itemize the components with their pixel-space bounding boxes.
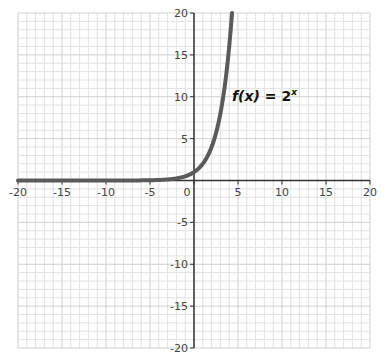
x-tick-label: 20 (363, 186, 377, 199)
function-graph: -20-15-10-505101520-20-15-10-55101520 f(… (0, 0, 382, 362)
y-tick-label: -10 (170, 258, 188, 271)
y-tick-label: 10 (174, 91, 188, 104)
x-tick-label: -5 (145, 186, 156, 199)
x-tick-label: 5 (235, 186, 242, 199)
x-tick-label: -10 (97, 186, 115, 199)
y-tick-label: 15 (174, 49, 188, 62)
y-tick-label: 5 (181, 133, 188, 146)
x-tick-label: 0 (184, 186, 191, 199)
x-tick-label: 10 (275, 186, 289, 199)
x-tick-label: -15 (53, 186, 71, 199)
x-tick-label: 15 (319, 186, 333, 199)
y-tick-label: -5 (177, 216, 188, 229)
function-label: f(x) = 2x (232, 87, 298, 104)
y-tick-label: -15 (170, 300, 188, 313)
y-tick-label: 20 (174, 7, 188, 20)
y-tick-label: -20 (170, 342, 188, 355)
x-tick-label: -20 (9, 186, 27, 199)
